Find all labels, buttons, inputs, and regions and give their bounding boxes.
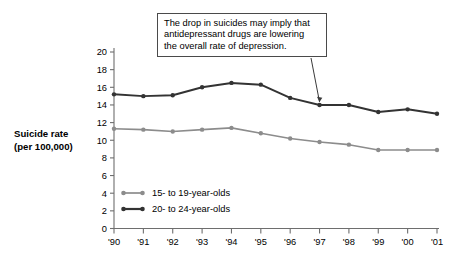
legend-swatch-marker — [140, 191, 145, 196]
y-tick-label: 14 — [97, 100, 107, 110]
legend-swatch-marker — [121, 191, 126, 196]
data-point — [347, 142, 351, 146]
data-point — [112, 127, 116, 131]
legend-label: 20- to 24-year-olds — [152, 204, 230, 214]
x-tick-label: '92 — [167, 237, 179, 247]
y-tick-label: 18 — [97, 65, 107, 75]
x-tick-label: '95 — [255, 237, 267, 247]
y-tick-label: 6 — [102, 171, 107, 181]
y-tick-label: 16 — [97, 83, 107, 93]
data-point — [317, 140, 321, 144]
arrow-shaft — [311, 58, 320, 102]
data-point — [141, 94, 145, 98]
data-point — [259, 82, 263, 86]
data-point — [405, 148, 409, 152]
data-point — [288, 96, 292, 100]
arrow-head — [317, 97, 322, 102]
data-point — [288, 136, 292, 140]
data-point — [405, 107, 409, 111]
data-point — [435, 112, 439, 116]
series-line — [114, 128, 437, 150]
data-point — [229, 126, 233, 130]
x-tick-label: '97 — [313, 237, 325, 247]
chart-legend: 15- to 19-year-olds20- to 24-year-olds — [121, 188, 230, 214]
data-point — [171, 93, 175, 97]
x-tick-label: '91 — [137, 237, 149, 247]
data-series-group — [112, 81, 439, 152]
y-tick-label: 8 — [102, 153, 107, 163]
y-tick-label: 0 — [102, 224, 107, 234]
x-tick-label: '94 — [225, 237, 237, 247]
plot-area: 02468101214161820 '90'91'92'93'94'95'96'… — [0, 0, 466, 257]
chart-figure: The drop in suicides may imply that anti… — [0, 0, 466, 257]
x-axis-ticks: '90'91'92'93'94'95'96'97'98'99'00'01 — [108, 229, 443, 247]
data-point — [317, 103, 321, 107]
x-tick-label: '99 — [372, 237, 384, 247]
x-tick-label: '93 — [196, 237, 208, 247]
data-point — [347, 103, 351, 107]
legend-label: 15- to 19-year-olds — [152, 188, 230, 198]
data-point — [141, 127, 145, 131]
data-point — [200, 127, 204, 131]
legend-swatch-marker — [140, 207, 145, 212]
x-tick-label: '98 — [343, 237, 355, 247]
annotation-arrow — [311, 58, 322, 102]
x-tick-label: '00 — [402, 237, 414, 247]
y-tick-label: 12 — [97, 118, 107, 128]
data-point — [229, 81, 233, 85]
x-tick-label: '90 — [108, 237, 120, 247]
x-tick-label: '01 — [431, 237, 443, 247]
y-axis-ticks: 02468101214161820 — [97, 47, 114, 234]
data-point — [376, 110, 380, 114]
data-point — [200, 85, 204, 89]
y-tick-label: 20 — [97, 47, 107, 57]
data-point — [259, 131, 263, 135]
data-point — [376, 148, 380, 152]
data-point — [435, 148, 439, 152]
y-tick-label: 4 — [102, 189, 107, 199]
series-line — [114, 83, 437, 114]
legend-swatch-marker — [121, 207, 126, 212]
data-point — [171, 129, 175, 133]
y-tick-label: 10 — [97, 136, 107, 146]
data-point — [112, 92, 116, 96]
x-tick-label: '96 — [284, 237, 296, 247]
y-tick-label: 2 — [102, 206, 107, 216]
